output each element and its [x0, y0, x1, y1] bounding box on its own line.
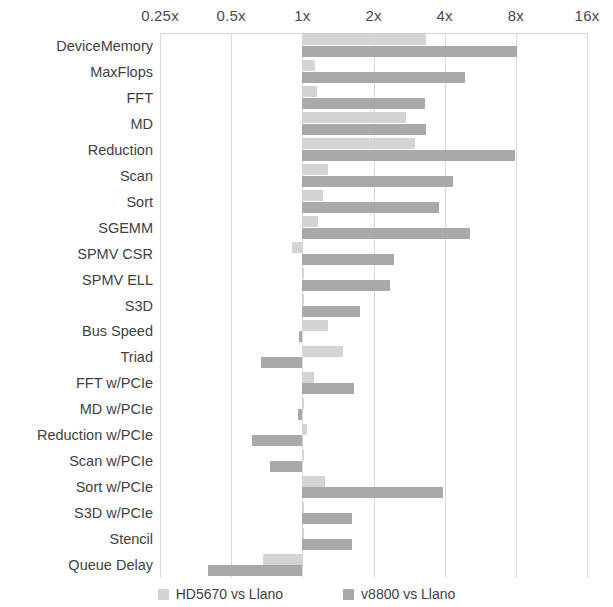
category-label-13: FFT w/PCIe — [0, 375, 153, 391]
category-label-0: DeviceMemory — [0, 38, 153, 54]
bar-1-series-1 — [302, 72, 465, 83]
bar-17-series-0 — [302, 476, 325, 487]
category-label-16: Scan w/PCIe — [0, 453, 153, 469]
bar-4-series-0 — [302, 138, 415, 149]
x-tick-label-4: 4x — [437, 7, 453, 24]
bar-3-series-0 — [302, 112, 406, 123]
bar-6-series-1 — [302, 202, 439, 213]
y-axis-category-labels: DeviceMemoryMaxFlopsFFTMDReductionScanSo… — [0, 0, 155, 607]
bar-4-series-1 — [302, 150, 514, 161]
category-label-15: Reduction w/PCIe — [0, 427, 153, 443]
legend-label-0: HD5670 vs Llano — [176, 586, 283, 602]
speedup-bar-chart: 0.25x0.5x1x2x4x8x16x DeviceMemoryMaxFlop… — [0, 0, 613, 607]
category-label-11: Bus Speed — [0, 323, 153, 339]
plot-area — [160, 33, 587, 578]
bar-15-series-0 — [302, 424, 307, 435]
bar-1-series-0 — [302, 60, 315, 71]
bar-0-series-0 — [302, 34, 426, 45]
legend-swatch-icon-0 — [158, 589, 169, 600]
legend-label-1: v8800 vs Llano — [361, 586, 455, 602]
bar-20-series-1 — [208, 565, 302, 576]
bar-15-series-1 — [252, 435, 303, 446]
category-label-18: S3D w/PCIe — [0, 505, 153, 521]
bar-9-series-0 — [302, 268, 304, 279]
bar-18-series-1 — [302, 513, 352, 524]
bar-13-series-1 — [302, 383, 354, 394]
bar-17-series-1 — [302, 487, 443, 498]
x-tick-label-3: 2x — [365, 7, 381, 24]
bar-14-series-0 — [302, 398, 304, 409]
gridline-5 — [516, 33, 517, 578]
bar-16-series-0 — [302, 450, 304, 461]
bar-5-series-1 — [302, 176, 453, 187]
category-label-4: Reduction — [0, 142, 153, 158]
category-label-8: SPMV CSR — [0, 246, 153, 262]
bar-19-series-0 — [302, 528, 304, 539]
category-label-19: Stencil — [0, 531, 153, 547]
category-label-10: S3D — [0, 298, 153, 314]
bar-11-series-1 — [299, 331, 302, 342]
bar-6-series-0 — [302, 190, 322, 201]
bar-3-series-1 — [302, 124, 426, 135]
bar-19-series-1 — [302, 539, 352, 550]
category-label-5: Scan — [0, 168, 153, 184]
x-tick-label-6: 16x — [575, 7, 600, 24]
bar-10-series-1 — [302, 306, 360, 317]
gridline-6 — [587, 33, 588, 578]
bar-12-series-1 — [261, 357, 302, 368]
x-tick-label-1: 0.5x — [217, 7, 246, 24]
bar-10-series-0 — [302, 294, 304, 305]
bar-0-series-1 — [302, 46, 517, 57]
bar-16-series-1 — [270, 461, 302, 472]
bar-12-series-0 — [302, 346, 342, 357]
category-label-3: MD — [0, 116, 153, 132]
gridline-1 — [231, 33, 232, 578]
bar-9-series-1 — [302, 280, 390, 291]
gridline-4 — [445, 33, 446, 578]
bar-7-series-0 — [302, 216, 317, 227]
legend-item-1[interactable]: v8800 vs Llano — [343, 586, 455, 602]
legend-swatch-icon-1 — [343, 589, 354, 600]
gridline-0 — [160, 33, 161, 578]
bar-8-series-1 — [302, 254, 394, 265]
legend-item-0[interactable]: HD5670 vs Llano — [158, 586, 283, 602]
category-label-14: MD w/PCIe — [0, 401, 153, 417]
bar-18-series-0 — [302, 502, 304, 513]
category-label-2: FFT — [0, 90, 153, 106]
category-label-9: SPMV ELL — [0, 272, 153, 288]
bar-13-series-0 — [302, 372, 314, 383]
category-label-12: Triad — [0, 349, 153, 365]
bar-5-series-0 — [302, 164, 327, 175]
category-label-7: SGEMM — [0, 220, 153, 236]
bar-20-series-0 — [263, 554, 303, 565]
bar-2-series-1 — [302, 98, 425, 109]
bar-8-series-0 — [292, 242, 303, 253]
category-label-20: Queue Delay — [0, 557, 153, 573]
category-label-6: Sort — [0, 194, 153, 210]
category-label-1: MaxFlops — [0, 64, 153, 80]
category-label-17: Sort w/PCIe — [0, 479, 153, 495]
x-tick-label-2: 1x — [294, 7, 310, 24]
bar-11-series-0 — [302, 320, 328, 331]
chart-legend: HD5670 vs Llanov8800 vs Llano — [0, 586, 613, 602]
bar-7-series-1 — [302, 228, 469, 239]
bar-14-series-1 — [298, 409, 302, 420]
bar-2-series-0 — [302, 86, 316, 97]
x-tick-label-5: 8x — [508, 7, 524, 24]
